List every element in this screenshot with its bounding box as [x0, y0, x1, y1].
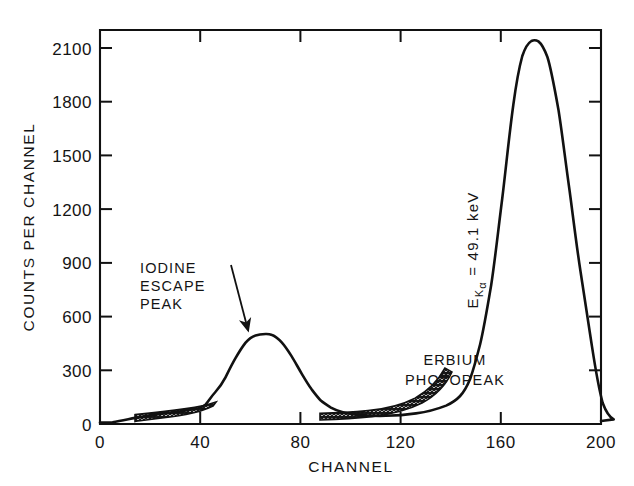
x-tick-labels: 0 40 80 120 160 200 — [95, 433, 616, 452]
x-axis-title: CHANNEL — [308, 458, 393, 475]
iodine-annotation-arrow-icon — [231, 265, 248, 330]
x-tick-label: 80 — [290, 433, 310, 452]
y-tick-label: 900 — [62, 254, 92, 273]
x-tick-label: 40 — [190, 433, 210, 452]
spectrum-curve — [100, 40, 614, 422]
y-tick-label: 1500 — [52, 147, 92, 166]
energy-subscript-alpha: α — [476, 281, 488, 289]
x-tick-label: 0 — [95, 433, 105, 452]
y-axis-ticks — [100, 48, 112, 424]
y-tick-label: 0 — [82, 416, 92, 435]
energy-value: = 49.1 keV — [464, 192, 481, 282]
erbium-annotation-line1: ERBIUM — [424, 352, 487, 368]
spectrum-figure: 0 300 600 900 1200 1500 1800 2100 0 40 8… — [0, 0, 634, 486]
y-tick-label: 2100 — [52, 40, 92, 59]
energy-label: EKα = 49.1 keV — [464, 192, 488, 309]
plot-frame — [100, 30, 601, 424]
y-axis-ticks-right — [589, 48, 601, 370]
x-axis-ticks-top — [200, 30, 501, 42]
y-tick-label: 300 — [62, 362, 92, 381]
x-tick-label: 200 — [586, 433, 616, 452]
iodine-annotation-line3: PEAK — [140, 296, 183, 312]
y-tick-label: 1800 — [52, 93, 92, 112]
iodine-annotation-line1: IODINE — [140, 260, 197, 276]
x-tick-label: 160 — [486, 433, 516, 452]
erbium-annotation-line2: PHOTOPEAK — [405, 372, 505, 388]
energy-subscript-k: K — [473, 289, 485, 298]
erbium-photopeak-annotation: ERBIUM PHOTOPEAK — [405, 352, 505, 388]
energy-symbol: E — [464, 297, 481, 308]
y-axis-title: COUNTS PER CHANNEL — [20, 123, 37, 332]
spectrum-plot: 0 300 600 900 1200 1500 1800 2100 0 40 8… — [0, 0, 634, 486]
iodine-annotation-line2: ESCAPE — [140, 278, 205, 294]
x-tick-label: 120 — [386, 433, 416, 452]
y-tick-label: 1200 — [52, 201, 92, 220]
y-tick-label: 600 — [62, 308, 92, 327]
iodine-escape-peak-annotation: IODINE ESCAPE PEAK — [140, 260, 248, 330]
y-tick-labels: 0 300 600 900 1200 1500 1800 2100 — [52, 40, 92, 435]
svg-text:EKα = 49.1 keV: EKα = 49.1 keV — [464, 192, 488, 309]
